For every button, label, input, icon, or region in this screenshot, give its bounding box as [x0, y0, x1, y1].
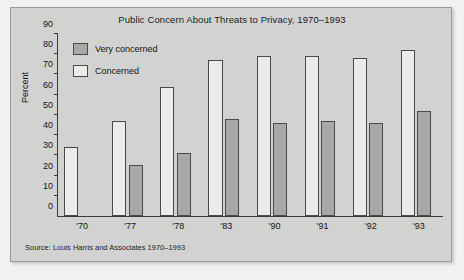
- bar-70-concerned: [64, 147, 78, 216]
- y-tick-label-20: 20: [22, 161, 58, 171]
- bar-group-91: '91: [299, 34, 347, 216]
- bar-83-very-concerned: [225, 119, 239, 216]
- y-tick-label-50: 50: [22, 100, 58, 110]
- legend-item-very-concerned: Very concerned: [73, 38, 158, 60]
- bar-92-concerned: [353, 58, 367, 216]
- bar-91-very-concerned: [321, 121, 335, 216]
- legend-item-concerned: Concerned: [73, 60, 158, 82]
- bar-93-concerned: [401, 50, 415, 216]
- x-tick-label-78: '78: [154, 221, 202, 231]
- bar-90-very-concerned: [273, 123, 287, 216]
- y-tick-label-30: 30: [22, 140, 58, 150]
- bar-group-83: '83: [202, 34, 250, 216]
- y-tick-label-90: 90: [22, 19, 58, 29]
- legend-label-very-concerned: Very concerned: [95, 44, 158, 54]
- chart-figure-panel: Public Concern About Threats to Privacy,…: [10, 7, 452, 262]
- bar-group-93: '93: [395, 34, 443, 216]
- y-tick-label-70: 70: [22, 59, 58, 69]
- chart-title: Public Concern About Threats to Privacy,…: [11, 14, 453, 25]
- legend-swatch-very-concerned-icon: [73, 43, 88, 55]
- x-tick-label-77: '77: [106, 221, 154, 231]
- x-tick-label-70: '70: [58, 221, 106, 231]
- x-tick-label-90: '90: [251, 221, 299, 231]
- y-tick-label-10: 10: [22, 181, 58, 191]
- legend-swatch-concerned-icon: [73, 65, 88, 77]
- bar-93-very-concerned: [417, 111, 431, 216]
- bar-78-concerned: [160, 87, 174, 216]
- bar-77-very-concerned: [129, 165, 143, 216]
- y-tick-label-0: 0: [22, 201, 58, 211]
- screenshot-root: Public Concern About Threats to Privacy,…: [0, 0, 464, 280]
- x-tick-label-91: '91: [299, 221, 347, 231]
- bar-group-90: '90: [251, 34, 299, 216]
- x-tick-label-92: '92: [347, 221, 395, 231]
- y-tick-label-60: 60: [22, 80, 58, 90]
- bar-83-concerned: [208, 60, 222, 216]
- bar-78-very-concerned: [177, 153, 191, 216]
- x-tick-label-83: '83: [202, 221, 250, 231]
- y-tick-label-40: 40: [22, 120, 58, 130]
- bar-77-concerned: [112, 121, 126, 216]
- bar-group-78: '78: [154, 34, 202, 216]
- chart-legend: Very concerned Concerned: [73, 38, 158, 82]
- source-note: Source: Louis Harris and Associates 1970…: [25, 243, 185, 252]
- bar-group-92: '92: [347, 34, 395, 216]
- bar-90-concerned: [257, 56, 271, 216]
- bar-91-concerned: [305, 56, 319, 216]
- x-tick-label-93: '93: [395, 221, 443, 231]
- bar-92-very-concerned: [369, 123, 383, 216]
- legend-label-concerned: Concerned: [95, 66, 139, 76]
- y-tick-label-80: 80: [22, 39, 58, 49]
